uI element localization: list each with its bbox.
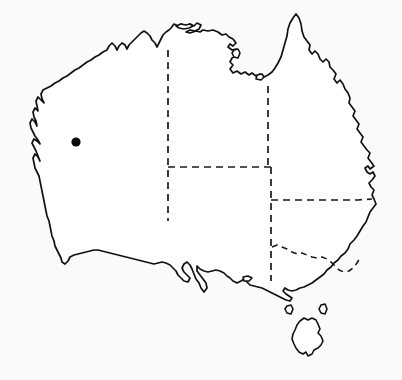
australia-map-svg bbox=[0, 0, 402, 380]
mornington-island-outline bbox=[256, 74, 264, 80]
tasmania-outline bbox=[292, 318, 323, 356]
locality-map-figure bbox=[0, 0, 402, 380]
flinders-island-outline bbox=[319, 304, 327, 314]
kangaroo-island-outline bbox=[243, 276, 252, 281]
king-island-outline bbox=[285, 305, 293, 314]
qld-nsw-border bbox=[271, 199, 372, 200]
groote-eylandt-outline bbox=[232, 49, 240, 58]
locality-point[interactable] bbox=[71, 137, 80, 146]
